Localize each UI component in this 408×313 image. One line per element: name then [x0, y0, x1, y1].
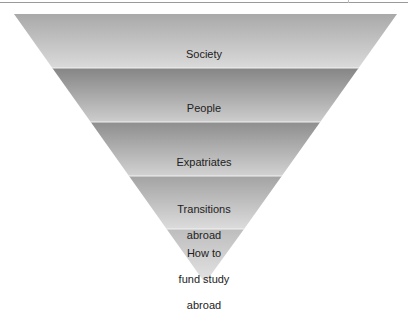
band-label-line: fund study	[0, 273, 408, 286]
band-label-expatriates: Expatriates	[0, 143, 408, 169]
band-label-text: Expatriates	[176, 156, 231, 168]
band-label-fund-study-abroad: How to fund study abroad	[0, 234, 408, 313]
band-label-line: How to	[0, 247, 408, 260]
band-label-text: Society	[186, 48, 222, 60]
band-label-people: People	[0, 89, 408, 115]
band-label-text: People	[187, 102, 221, 114]
band-label-line: Transitions	[0, 203, 408, 216]
band-label-society: Society	[0, 35, 408, 61]
band-label-line: abroad	[0, 299, 408, 312]
